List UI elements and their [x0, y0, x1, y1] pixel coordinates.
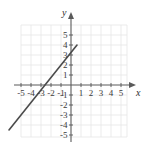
y-tick-label-5: 5	[63, 31, 68, 40]
y-tick-label--2: -2	[60, 101, 68, 110]
x-tick-label-1: 1	[79, 89, 84, 98]
x-tick-label--3: -3	[37, 89, 45, 98]
y-tick-label--3: -3	[60, 111, 68, 120]
y-tick-label-4: 4	[63, 41, 68, 50]
y-axis-label: y	[62, 8, 66, 17]
y-axis	[68, 12, 74, 142]
x-axis-label: x	[136, 88, 140, 97]
y-tick-label--4: -4	[60, 121, 68, 130]
x-tick-label-4: 4	[109, 89, 114, 98]
x-tick-label-2: 2	[89, 89, 94, 98]
grid-lines	[21, 25, 127, 137]
graph-canvas	[0, 0, 147, 149]
y-tick-label--1: -1	[60, 91, 68, 100]
y-tick-label--5: -5	[60, 131, 68, 140]
x-tick-label--5: -5	[17, 89, 25, 98]
x-tick-label--4: -4	[27, 89, 35, 98]
y-tick-label-2: 2	[63, 61, 68, 70]
y-tick-label-3: 3	[63, 51, 68, 60]
x-tick-label-3: 3	[99, 89, 104, 98]
y-tick-label-1: 1	[63, 71, 68, 80]
x-tick-label--2: -2	[47, 89, 55, 98]
x-tick-label-5: 5	[119, 89, 124, 98]
coordinate-plane-figure: -5 -4 -3 -2 -1 1 2 3 4 5 5 4 3 2 1 -1 -2…	[0, 0, 147, 149]
